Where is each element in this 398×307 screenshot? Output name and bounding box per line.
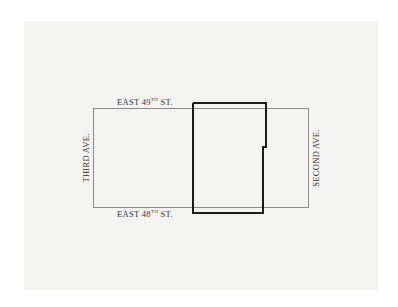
street-label-west: THIRD AVE. <box>81 128 91 188</box>
street-label-east: SECOND AVE. <box>311 126 321 190</box>
street-label-south: EAST 48TH ST. <box>117 209 173 219</box>
street-label-north: EAST 49TH ST. <box>117 97 173 107</box>
site-outline <box>0 0 398 307</box>
